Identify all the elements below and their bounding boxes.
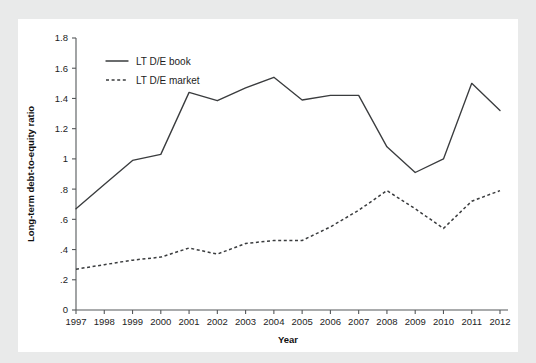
x-axis-title: Year	[278, 334, 298, 345]
y-tick-label: .8	[60, 184, 68, 195]
x-tick-label: 2007	[348, 316, 369, 327]
y-tick-label: 0	[63, 304, 68, 315]
y-tick-label: 1.2	[55, 123, 68, 134]
x-axis-tick-labels: 1997199819992000200120022003200420052006…	[65, 316, 510, 327]
legend: LT D/E book LT D/E market	[106, 56, 200, 86]
chart-page: 0.2.4.6.811.21.41.61.8 19971998199920002…	[0, 0, 536, 363]
y-axis-title: Long-term debt-to-equity ratio	[25, 106, 36, 242]
y-tick-label: .2	[60, 274, 68, 285]
y-tick-label: 1.6	[55, 63, 68, 74]
x-tick-label: 2004	[263, 316, 284, 327]
series-line-lt-de-market	[76, 191, 500, 270]
x-tick-label: 1999	[122, 316, 143, 327]
x-tick-label: 2012	[489, 316, 510, 327]
x-tick-label: 1998	[94, 316, 115, 327]
chart-panel: 0.2.4.6.811.21.41.61.8 19971998199920002…	[18, 19, 518, 352]
x-tick-label: 2005	[292, 316, 313, 327]
y-axis-ticks	[72, 38, 76, 310]
x-tick-label: 2003	[235, 316, 256, 327]
x-tick-label: 2011	[462, 316, 482, 327]
x-tick-label: 2006	[320, 316, 341, 327]
x-tick-label: 2010	[433, 316, 454, 327]
y-axis-tick-labels: 0.2.4.6.811.21.41.61.8	[55, 32, 68, 315]
x-tick-label: 2001	[178, 316, 199, 327]
x-tick-label: 2002	[207, 316, 228, 327]
x-axis-ticks	[76, 310, 500, 314]
y-tick-label: 1.4	[55, 93, 68, 104]
x-tick-label: 2009	[405, 316, 426, 327]
x-tick-label: 2008	[376, 316, 397, 327]
x-tick-label: 1997	[65, 316, 86, 327]
series-line-lt-de-book	[76, 77, 500, 208]
line-chart: 0.2.4.6.811.21.41.61.8 19971998199920002…	[18, 19, 518, 352]
y-tick-label: 1	[63, 153, 68, 164]
y-tick-label: .4	[60, 244, 68, 255]
y-tick-label: 1.8	[55, 32, 68, 43]
y-tick-label: .6	[60, 214, 68, 225]
legend-label-lt-de-market: LT D/E market	[136, 75, 200, 86]
legend-label-lt-de-book: LT D/E book	[136, 56, 192, 67]
x-tick-label: 2000	[150, 316, 171, 327]
